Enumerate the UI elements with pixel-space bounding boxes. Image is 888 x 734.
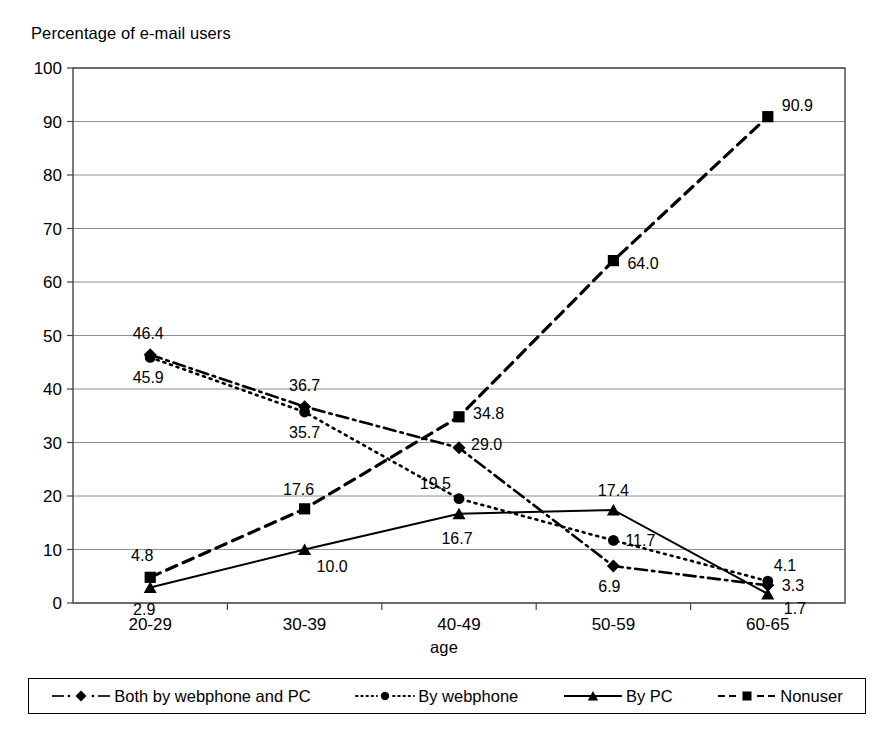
data-point-marker (608, 255, 619, 266)
data-point-label: 29.0 (471, 436, 502, 453)
legend-item-by-webphone[interactable]: By webphone (355, 687, 518, 706)
circle-marker-icon (355, 687, 415, 705)
data-point-marker (761, 588, 774, 600)
legend: Both by webphone and PC By webphone By P… (28, 678, 866, 714)
data-point-marker (299, 407, 310, 418)
data-point-label: 36.7 (289, 377, 320, 394)
data-point-marker (608, 535, 619, 546)
data-point-marker (145, 352, 156, 363)
data-point-marker (607, 560, 620, 573)
data-point-label: 2.9 (133, 601, 155, 618)
series-line (150, 510, 768, 594)
chart-container: Percentage of e-mail users 0102030405060… (0, 0, 888, 734)
legend-item-both-by-webphone-and-pc[interactable]: Both by webphone and PC (51, 687, 310, 706)
data-point-label: 46.4 (133, 325, 164, 342)
y-tick-label: 20 (43, 487, 62, 506)
data-point-label: 35.7 (289, 424, 320, 441)
legend-label: By PC (626, 687, 673, 706)
y-tick-label: 60 (43, 273, 62, 292)
data-point-label: 6.9 (598, 578, 620, 595)
data-point-label: 17.6 (283, 481, 314, 498)
x-tick-label: 40-49 (437, 615, 480, 634)
data-point-label: 3.3 (782, 577, 804, 594)
data-point-label: 45.9 (133, 369, 164, 386)
data-point-label: 10.0 (317, 558, 348, 575)
y-axis-tick-labels: 0102030405060708090100 (34, 59, 62, 613)
data-point-label: 4.8 (131, 547, 153, 564)
legend-label: Both by webphone and PC (114, 687, 310, 706)
data-point-label: 90.9 (782, 97, 813, 114)
triangle-marker-icon (563, 687, 623, 705)
data-point-marker (299, 503, 310, 514)
x-tick-label: 50-59 (592, 615, 635, 634)
data-point-label: 19.5 (420, 475, 451, 492)
diamond-marker-icon (51, 687, 111, 705)
gridlines-group (73, 68, 845, 603)
legend-label: Nonuser (780, 687, 842, 706)
data-point-label: 11.7 (625, 532, 655, 549)
data-point-label: 1.7 (784, 600, 806, 617)
y-tick-label: 70 (43, 220, 62, 239)
series-markers-group (144, 111, 775, 599)
data-point-marker (145, 572, 156, 583)
y-tick-label: 10 (43, 541, 62, 560)
x-axis-category-labels: 20-2930-3940-4950-5960-65 (128, 615, 789, 634)
data-point-label: 64.0 (627, 255, 658, 272)
data-point-marker (762, 576, 773, 587)
legend-item-by-pc[interactable]: By PC (563, 687, 673, 706)
square-marker-icon (717, 687, 777, 705)
data-point-marker (762, 111, 773, 122)
legend-item-nonuser[interactable]: Nonuser (717, 687, 842, 706)
data-point-label: 34.8 (473, 405, 504, 422)
data-point-marker (453, 411, 464, 422)
data-point-label: 17.4 (598, 482, 629, 499)
data-point-label: 16.7 (441, 530, 472, 547)
y-tick-label: 50 (43, 327, 62, 346)
x-axis-title: age (0, 638, 888, 657)
y-tick-label: 0 (53, 594, 62, 613)
y-tick-label: 90 (43, 113, 62, 132)
plot-area: 0102030405060708090100 20-2930-3940-4950… (0, 0, 888, 734)
y-tick-label: 100 (34, 59, 62, 78)
x-tick-label: 60-65 (746, 615, 789, 634)
data-point-marker (454, 493, 465, 504)
data-point-label: 4.1 (774, 557, 796, 574)
series-lines-group (150, 117, 768, 594)
y-tick-label: 30 (43, 434, 62, 453)
y-tick-label: 40 (43, 380, 62, 399)
series-line (150, 357, 768, 581)
y-tick-label: 80 (43, 166, 62, 185)
x-tick-label: 30-39 (283, 615, 326, 634)
legend-label: By webphone (418, 687, 518, 706)
